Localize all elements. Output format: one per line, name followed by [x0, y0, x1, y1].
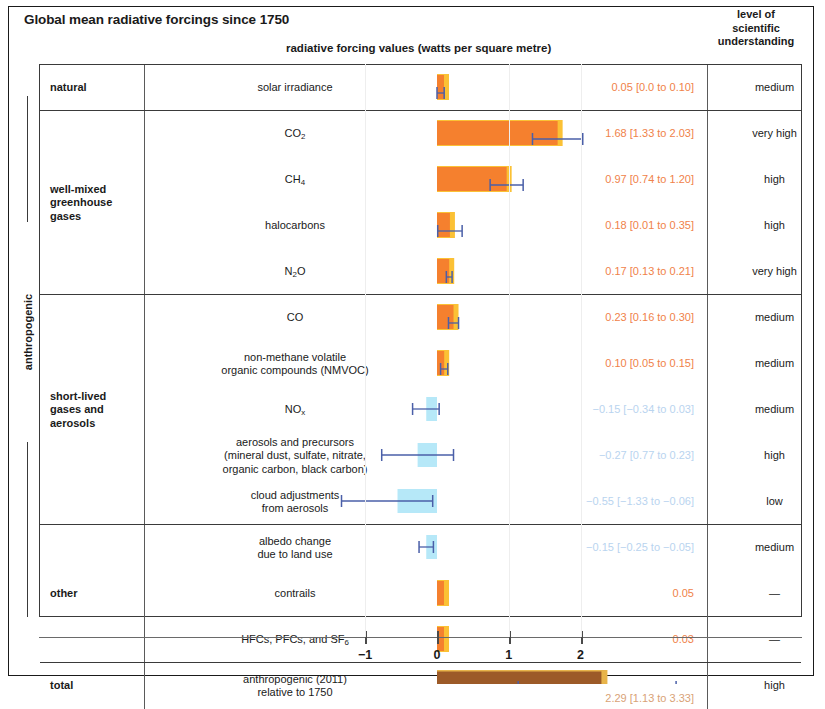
table-row: CH40.97 [0.74 to 1.20]high: [40, 157, 801, 203]
axis-tick-label: −1: [345, 648, 385, 662]
row-losu: high: [707, 449, 825, 461]
losu-header-line: level of: [737, 8, 775, 20]
table-row: N2O0.17 [0.13 to 0.21]very high: [40, 249, 801, 295]
forcing-table: naturalsolar irradiance0.05 [0.0 to 0.10…: [39, 64, 802, 617]
row-value: 0.10 [0.05 to 0.15]: [605, 357, 694, 369]
group-natural: naturalsolar irradiance0.05 [0.0 to 0.10…: [40, 65, 801, 111]
row-label: non-methane volatileorganic compounds (N…: [150, 351, 440, 378]
row-losu: —: [707, 633, 825, 645]
row-losu: medium: [707, 403, 825, 415]
group-total: totalanthropogenic (2011)relative to 175…: [40, 663, 801, 709]
x-axis-line: [39, 637, 802, 638]
row-losu: very high: [707, 127, 825, 139]
group-well-mixed: well-mixedgreenhousegasesCO21.68 [1.33 t…: [40, 111, 801, 295]
table-row: non-methane volatileorganic compounds (N…: [40, 341, 801, 387]
group-other: otheralbedo changedue to land use−0.15 […: [40, 525, 801, 663]
table-row: CO0.23 [0.16 to 0.30]medium: [40, 295, 801, 341]
row-losu: medium: [707, 357, 825, 369]
group-short-lived: short-livedgases andaerosolsCO0.23 [0.16…: [40, 295, 801, 525]
row-label: anthropogenic (2011)relative to 1750: [150, 673, 440, 700]
axis-tick: [437, 631, 439, 644]
row-losu: high: [707, 173, 825, 185]
table-row: cloud adjustmentsfrom aerosols−0.55 [−1.…: [40, 479, 801, 525]
row-value: −0.15 [−0.34 to 0.03]: [592, 403, 694, 415]
row-value: 1.68 [1.33 to 2.03]: [605, 127, 694, 139]
page-title: Global mean radiative forcings since 175…: [24, 12, 289, 27]
losu-header-line: understanding: [718, 35, 794, 47]
row-label: albedo changedue to land use: [150, 535, 440, 562]
row-losu: very high: [707, 265, 825, 277]
axis-tick-label: 2: [561, 648, 601, 662]
row-value: 0.05: [673, 587, 694, 599]
row-losu: high: [707, 679, 825, 691]
row-losu: medium: [707, 541, 825, 553]
anthropogenic-bracket: anthropogenic: [16, 96, 38, 617]
row-label: halocarbons: [150, 219, 440, 233]
row-label: CO: [150, 311, 440, 325]
row-value: −0.15 [−0.25 to −0.05]: [586, 541, 694, 553]
row-label: HFCs, PFCs, and SF6: [150, 633, 440, 649]
table-row: aerosols and precursors(mineral dust, su…: [40, 433, 801, 479]
gridline: [365, 64, 366, 637]
row-label: NOx: [150, 403, 440, 419]
axis-title: radiative forcing values (watts per squa…: [286, 42, 551, 54]
row-value: 0.03: [673, 633, 694, 645]
row-label: aerosols and precursors(mineral dust, su…: [150, 436, 440, 477]
row-value: −0.27 [0.77 to 0.23]: [599, 449, 694, 461]
row-losu: medium: [707, 311, 825, 323]
row-losu: high: [707, 219, 825, 231]
gridline: [581, 64, 582, 637]
row-value: −0.55 [−1.33 to −0.06]: [586, 495, 694, 507]
row-label: contrails: [150, 587, 440, 601]
table-row: NOx−0.15 [−0.34 to 0.03]medium: [40, 387, 801, 433]
table-row: solar irradiance0.05 [0.0 to 0.10]medium: [40, 65, 801, 111]
table-row: albedo changedue to land use−0.15 [−0.25…: [40, 525, 801, 571]
row-losu: medium: [707, 81, 825, 93]
losu-header-line: scientific: [732, 22, 780, 34]
row-label: solar irradiance: [150, 81, 440, 95]
row-losu: low: [707, 495, 825, 507]
table-row: CO21.68 [1.33 to 2.03]very high: [40, 111, 801, 157]
axis-tick-label: 0: [417, 648, 457, 662]
row-value: 0.97 [0.74 to 1.20]: [605, 173, 694, 185]
row-label: CO2: [150, 127, 440, 143]
row-losu: —: [707, 587, 825, 599]
row-value: 0.18 [0.01 to 0.35]: [605, 219, 694, 231]
row-label: CH4: [150, 173, 440, 189]
table-row: halocarbons0.18 [0.01 to 0.35]high: [40, 203, 801, 249]
row-value: 0.17 [0.13 to 0.21]: [605, 265, 694, 277]
table-row: contrails0.05—: [40, 571, 801, 617]
row-label: cloud adjustmentsfrom aerosols: [150, 489, 440, 516]
axis-tick-label: 1: [489, 648, 529, 662]
row-value: 0.05 [0.0 to 0.10]: [611, 81, 694, 93]
table-row: anthropogenic (2011)relative to 17502.29…: [40, 663, 801, 709]
row-value: 2.29 [1.13 to 3.33]: [605, 692, 694, 704]
gridline: [509, 64, 510, 637]
row-label: N2O: [150, 265, 440, 281]
row-value: 0.23 [0.16 to 0.30]: [605, 311, 694, 323]
losu-column-header: level ofscientificunderstanding: [706, 8, 806, 49]
anthropogenic-label: anthropogenic: [20, 222, 36, 442]
